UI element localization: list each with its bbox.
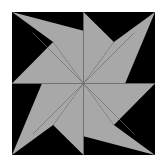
image-canvas xyxy=(0,0,164,165)
star-seam-lines xyxy=(12,12,155,155)
eight-point-star-block xyxy=(0,0,164,165)
